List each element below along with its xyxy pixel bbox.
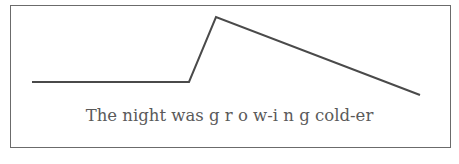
caption-part-1: The night was xyxy=(86,106,209,125)
caption-part-3: cold-er xyxy=(310,106,374,125)
caption-part-2-stretched: g r o w-i n g xyxy=(209,106,310,125)
pitch-contour-line xyxy=(0,0,459,164)
caption-sentence: The night was g r o w-i n g cold-er xyxy=(0,106,459,125)
